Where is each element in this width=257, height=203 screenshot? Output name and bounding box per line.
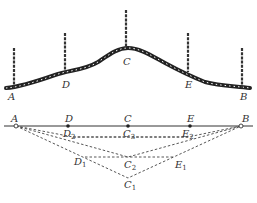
label-E1: E1 bbox=[174, 159, 187, 172]
label-top-B: B bbox=[239, 91, 247, 102]
label-top-D: D bbox=[61, 79, 70, 90]
label-top-C: C bbox=[123, 56, 131, 67]
ground-curve bbox=[6, 48, 250, 88]
label-C2: C2 bbox=[124, 159, 136, 172]
label-C: C bbox=[124, 113, 132, 124]
label-top-E: E bbox=[184, 79, 193, 90]
label-C3: C3 bbox=[123, 128, 135, 141]
label-D: D bbox=[64, 113, 73, 124]
label-B: B bbox=[241, 113, 249, 124]
survey-diagram: A D C E B A D C E B D2 C3 E2 bbox=[0, 0, 257, 203]
label-E2: E2 bbox=[181, 128, 194, 141]
point-A bbox=[14, 124, 18, 128]
label-top-A: A bbox=[7, 91, 15, 102]
point-B bbox=[239, 124, 243, 128]
plan-construction: A D C E B D2 C3 E2 D1 C2 E1 C1 bbox=[4, 113, 253, 192]
label-D1: D1 bbox=[73, 156, 87, 169]
terrain-profile: A D C E B bbox=[6, 10, 250, 102]
label-A: A bbox=[10, 113, 18, 124]
label-C1: C1 bbox=[124, 179, 136, 192]
label-E: E bbox=[186, 113, 195, 124]
